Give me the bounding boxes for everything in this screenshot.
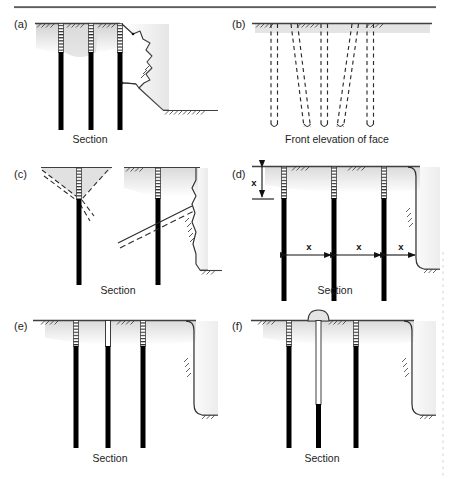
panel-b: (b) bbox=[232, 18, 432, 145]
panel-b-label: (b) bbox=[232, 18, 245, 30]
panel-f: (f) bbox=[232, 310, 436, 464]
panel-d-label: (d) bbox=[232, 168, 245, 180]
panel-d-face-hatch bbox=[406, 208, 413, 227]
panel-b-pile-2-raked bbox=[291, 24, 311, 127]
panel-b-piles bbox=[271, 24, 374, 127]
panel-d-spacing-x-1: x bbox=[306, 241, 312, 252]
panel-c-label: (c) bbox=[14, 168, 27, 180]
panel-b-pile-4-raked bbox=[337, 24, 359, 127]
panel-d: (d) bbox=[232, 167, 440, 302]
panel-f-pile-3 bbox=[354, 321, 359, 449]
panel-d-pile-1 bbox=[282, 167, 287, 302]
panel-b-pile-toes bbox=[271, 124, 374, 127]
panel-d-spacing-x-3: x bbox=[398, 241, 404, 252]
panel-d-pile-2 bbox=[332, 167, 337, 302]
top-rule bbox=[14, 6, 436, 8]
panel-a-label: (a) bbox=[14, 18, 27, 30]
panel-c-lower-hatch bbox=[202, 271, 215, 275]
panel-d-vertical-x-label: x bbox=[251, 177, 257, 188]
panel-f-pile-1 bbox=[287, 321, 292, 449]
panel-e-label: (e) bbox=[14, 320, 27, 332]
panel-d-caption: Section bbox=[317, 284, 352, 296]
panel-b-pile-5 bbox=[367, 24, 374, 127]
panel-d-horizontal-dimensions: x x x bbox=[287, 241, 415, 255]
panel-d-spacing-x-2: x bbox=[356, 241, 362, 252]
panel-d-pile-3 bbox=[382, 167, 387, 302]
panel-b-caption: Front elevation of face bbox=[285, 133, 389, 145]
panel-e-pile-1 bbox=[74, 321, 79, 449]
panel-e-ground-shade bbox=[45, 321, 196, 345]
panel-c-pile-right bbox=[156, 168, 161, 286]
panel-b-pile-3 bbox=[321, 24, 328, 127]
panel-a-caption: Section bbox=[72, 133, 107, 145]
panel-a-pile-2 bbox=[89, 24, 94, 131]
panel-b-ground-shade bbox=[255, 24, 430, 33]
panel-c: (c) bbox=[14, 168, 222, 297]
panel-a-node-upper bbox=[132, 33, 135, 36]
panel-d-ground-shade bbox=[265, 167, 420, 193]
panel-b-pile-1 bbox=[271, 24, 278, 127]
panel-a-tie bbox=[122, 83, 136, 84]
panel-c-right bbox=[118, 168, 222, 286]
panel-a-pile-3 bbox=[118, 24, 123, 131]
panel-e-pile-3 bbox=[141, 321, 146, 449]
panel-e: (e) Secti bbox=[14, 320, 218, 464]
panel-a-face-shade bbox=[122, 24, 169, 110]
panel-e-pile-2-hollow bbox=[106, 321, 111, 449]
pile-wall-figure: (a) bbox=[0, 0, 450, 479]
panel-e-caption: Section bbox=[92, 452, 127, 464]
panel-f-ground-shade bbox=[263, 321, 414, 345]
panel-c-left bbox=[41, 168, 112, 286]
panel-f-mushroom-cap bbox=[308, 310, 329, 321]
panel-c-pile-left bbox=[77, 168, 82, 286]
panel-c-face-shade bbox=[192, 168, 208, 270]
panel-f-label: (f) bbox=[232, 320, 242, 332]
panel-f-face-hatch bbox=[402, 358, 409, 377]
panel-c-caption: Section bbox=[100, 284, 135, 296]
panel-a-pile-1 bbox=[59, 24, 64, 131]
panel-c-right-shade bbox=[124, 168, 198, 197]
panel-a: (a) bbox=[14, 18, 218, 145]
panel-f-caption: Section bbox=[304, 452, 339, 464]
figure-root: (a) bbox=[0, 0, 450, 479]
panel-e-face-hatch bbox=[184, 358, 191, 377]
